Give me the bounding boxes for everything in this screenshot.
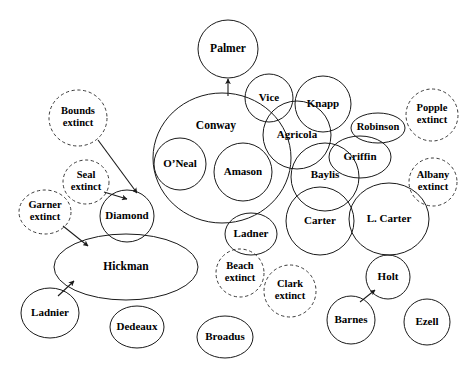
node-garner[interactable]: Garnerextinct xyxy=(19,190,71,234)
nodes-layer: PalmerConwayO’NealAmasonViceKnappAgricol… xyxy=(19,20,458,358)
node-outline-palmer[interactable] xyxy=(198,20,258,78)
node-clark[interactable]: Clarkextinct xyxy=(264,265,316,317)
node-label-oneal: O’Neal xyxy=(163,157,197,169)
node-outline-amason[interactable] xyxy=(214,143,272,201)
node-outline-ezell[interactable] xyxy=(404,299,450,345)
node-label-line: Garner xyxy=(28,199,62,210)
node-label-knapp: Knapp xyxy=(307,97,339,109)
node-label-line: Diamond xyxy=(105,209,148,221)
node-outline-hickman[interactable] xyxy=(54,234,198,300)
node-outline-holt[interactable] xyxy=(366,255,410,299)
node-label-line: L. Carter xyxy=(367,212,412,224)
node-label-line: Albany xyxy=(417,169,450,180)
node-outline-agricola[interactable] xyxy=(263,101,331,169)
node-outline-barnes[interactable] xyxy=(327,296,375,344)
node-label-line: Conway xyxy=(196,119,237,132)
node-outline-griffin[interactable] xyxy=(329,136,391,178)
node-outline-oneal[interactable] xyxy=(154,138,206,190)
edges-layer xyxy=(58,79,375,302)
node-label-line: Barnes xyxy=(335,313,369,325)
node-outline-dedeaux[interactable] xyxy=(110,306,164,348)
node-outline-ladner[interactable] xyxy=(225,213,277,255)
node-label-seal: Sealextinct xyxy=(71,169,102,192)
node-agricola[interactable]: Agricola xyxy=(263,101,331,169)
node-outline-conway[interactable] xyxy=(153,93,291,223)
node-ezell[interactable]: Ezell xyxy=(404,299,450,345)
node-label-line: extinct xyxy=(63,118,94,129)
node-label-line: Hickman xyxy=(103,260,149,272)
edge-bounds-diamond xyxy=(98,140,137,193)
node-dedeaux[interactable]: Dedeaux xyxy=(110,306,164,348)
node-label-ladner: Ladner xyxy=(234,227,269,239)
node-albany[interactable]: Albanyextinct xyxy=(409,158,457,206)
node-label-line: Knapp xyxy=(307,97,339,109)
node-label-line: O’Neal xyxy=(163,157,197,169)
node-carter[interactable]: Carter xyxy=(286,187,354,255)
node-label-line: extinct xyxy=(225,273,256,284)
node-outline-seal[interactable] xyxy=(63,160,109,204)
node-broadus[interactable]: Broadus xyxy=(197,316,253,358)
node-outline-popple[interactable] xyxy=(406,89,458,141)
node-outline-albany[interactable] xyxy=(409,158,457,206)
node-outline-knapp[interactable] xyxy=(295,76,351,132)
node-label-line: extinct xyxy=(30,212,61,223)
node-holt[interactable]: Holt xyxy=(366,255,410,299)
node-knapp[interactable]: Knapp xyxy=(295,76,351,132)
node-label-line: Seal xyxy=(77,169,96,180)
node-label-line: Amason xyxy=(224,165,263,177)
node-conway[interactable]: Conway xyxy=(153,93,291,223)
node-outline-broadus[interactable] xyxy=(197,316,253,358)
node-outline-lcarter[interactable] xyxy=(349,183,429,255)
node-label-line: Holt xyxy=(378,270,399,282)
node-label-baylis: Baylis xyxy=(311,168,340,180)
node-barnes[interactable]: Barnes xyxy=(327,296,375,344)
node-label-bounds: Boundsextinct xyxy=(61,105,95,128)
node-label-line: Beach xyxy=(226,260,254,271)
node-outline-vice[interactable] xyxy=(245,74,293,122)
node-outline-carter[interactable] xyxy=(286,187,354,255)
node-outline-robinson[interactable] xyxy=(351,113,405,143)
node-hickman[interactable]: Hickman xyxy=(54,234,198,300)
node-seal[interactable]: Sealextinct xyxy=(63,160,109,204)
node-lcarter[interactable]: L. Carter xyxy=(349,183,429,255)
node-label-line: extinct xyxy=(275,291,306,302)
node-griffin[interactable]: Griffin xyxy=(329,136,391,178)
node-label-holt: Holt xyxy=(378,270,399,282)
node-label-line: Palmer xyxy=(210,42,246,54)
node-vice[interactable]: Vice xyxy=(245,74,293,122)
node-label-carter: Carter xyxy=(304,214,336,226)
node-amason[interactable]: Amason xyxy=(214,143,272,201)
node-beach[interactable]: Beachextinct xyxy=(216,249,264,297)
node-label-vice: Vice xyxy=(259,91,279,103)
node-label-hickman: Hickman xyxy=(103,260,149,272)
edge-arrow-icon xyxy=(360,290,375,302)
node-label-line: Vice xyxy=(259,91,279,103)
node-label-line: Baylis xyxy=(311,168,340,180)
node-label-line: Bounds xyxy=(61,105,95,116)
node-robinson[interactable]: Robinson xyxy=(351,113,405,143)
node-label-line: extinct xyxy=(71,182,102,193)
node-outline-ladnier[interactable] xyxy=(21,288,79,338)
node-popple[interactable]: Poppleextinct xyxy=(406,89,458,141)
node-label-garner: Garnerextinct xyxy=(28,199,62,222)
node-label-line: Popple xyxy=(417,102,448,113)
node-outline-garner[interactable] xyxy=(19,190,71,234)
diagram-canvas: PalmerConwayO’NealAmasonViceKnappAgricol… xyxy=(0,0,473,369)
node-palmer[interactable]: Palmer xyxy=(198,20,258,78)
node-outline-beach[interactable] xyxy=(216,249,264,297)
node-label-line: extinct xyxy=(418,182,449,193)
node-outline-clark[interactable] xyxy=(264,265,316,317)
node-label-line: Ladner xyxy=(234,227,269,239)
node-ladner[interactable]: Ladner xyxy=(225,213,277,255)
node-label-line: Clark xyxy=(277,278,303,289)
node-label-conway: Conway xyxy=(196,119,237,132)
node-oneal[interactable]: O’Neal xyxy=(154,138,206,190)
node-label-line: Carter xyxy=(304,214,336,226)
node-ladnier[interactable]: Ladnier xyxy=(21,288,79,338)
node-bounds[interactable]: Boundsextinct xyxy=(49,90,107,146)
node-outline-bounds[interactable] xyxy=(49,90,107,146)
edge-barnes-holt xyxy=(360,290,375,302)
node-label-line: Ladnier xyxy=(31,306,69,318)
node-label-line: Griffin xyxy=(344,150,377,162)
node-label-amason: Amason xyxy=(224,165,263,177)
